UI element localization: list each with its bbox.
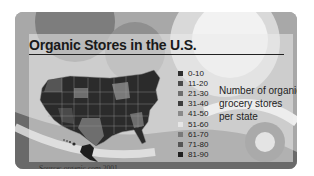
chart-title: Organic Stores in the U.S. [29,37,197,53]
legend-label: 51-60 [188,120,208,129]
legend-swatch [178,142,183,147]
legend-item: 81-90 [178,150,208,160]
map-region-wyoming [74,88,88,98]
description-line: grocery stores [219,97,297,110]
source-citation: Source: organic.com 2001 [39,164,118,169]
legend-swatch [178,132,183,137]
legend-label: 61-70 [188,130,208,139]
legend-label: 11-20 [188,79,208,88]
description-line: per state [219,110,297,123]
map-region-pacific-nw [44,78,62,92]
legend-item: 11-20 [178,78,208,88]
map-alaska [80,144,98,162]
legend-swatch [178,152,183,157]
legend-item: 51-60 [178,119,208,129]
infographic-card: Organic Stores in the U.S. 0-10 11-20 21… [15,12,297,169]
legend-item: 21-30 [178,88,208,98]
legend-swatch [178,101,183,106]
legend-item: 71-80 [178,139,208,149]
legend-swatch [178,111,183,116]
description-line: Number of organic [219,84,297,97]
legend-item: 31-40 [178,99,208,109]
legend-item: 0-10 [178,68,208,78]
legend-item: 41-50 [178,109,208,119]
legend-label: 21-30 [188,89,208,98]
title-underline [29,54,284,55]
us-choropleth-map [30,64,170,164]
legend-label: 81-90 [188,150,208,159]
legend-item: 61-70 [178,129,208,139]
legend-swatch [178,91,183,96]
legend-swatch [178,71,183,76]
legend-label: 71-80 [188,140,208,149]
chart-legend: 0-10 11-20 21-30 31-40 41-50 51-60 61-70… [178,68,208,160]
legend-swatch [178,81,183,86]
legend-label: 0-10 [188,69,204,78]
map-hawaii [63,139,75,145]
legend-label: 31-40 [188,99,208,108]
legend-swatch [178,122,183,127]
legend-label: 41-50 [188,109,208,118]
legend-description: Number of organic grocery stores per sta… [219,84,297,123]
